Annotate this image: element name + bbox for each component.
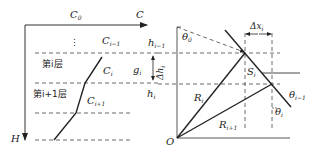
delta-h-label: Δhi xyxy=(155,66,166,81)
layer-i1-label: 第i+1层 xyxy=(33,88,67,99)
s-i-label: Si xyxy=(247,66,256,78)
g-i-label: gi xyxy=(133,64,141,76)
h-i-label: hi xyxy=(147,88,155,100)
c-prev-label: Ci−1 xyxy=(102,35,120,47)
right-panel: O θ0 Δxi Si Ri Ri+1 θi−1 θi xyxy=(158,21,306,147)
origin-label: O xyxy=(166,136,174,147)
c-i-label: Ci xyxy=(103,65,113,77)
theta-prev-label: θi−1 xyxy=(289,89,306,101)
wavefront-line xyxy=(225,30,291,107)
left-panel: C0 C H ⋮ Ci−1 Ci Ci+1 第i层 第i+1层 hi−1 gi … xyxy=(10,9,166,144)
r-next-label: Ri+1 xyxy=(218,119,237,131)
h-axis-label: H xyxy=(10,133,20,144)
refraction-diagram: C0 C H ⋮ Ci−1 Ci Ci+1 第i层 第i+1层 hi−1 gi … xyxy=(0,0,312,156)
h-prev-label: hi−1 xyxy=(148,37,165,49)
c0-label: C0 xyxy=(70,9,82,21)
r-i-label: Ri xyxy=(193,92,204,104)
ellipsis: ⋮ xyxy=(70,38,79,48)
c-axis-label: C xyxy=(136,9,144,20)
c-next-label: Ci+1 xyxy=(87,95,105,107)
delta-x-label: Δxi xyxy=(249,21,264,32)
theta-i-label: θi xyxy=(275,106,283,118)
theta0-label: θ0 xyxy=(182,31,192,43)
layer-i-label: 第i层 xyxy=(42,58,63,69)
